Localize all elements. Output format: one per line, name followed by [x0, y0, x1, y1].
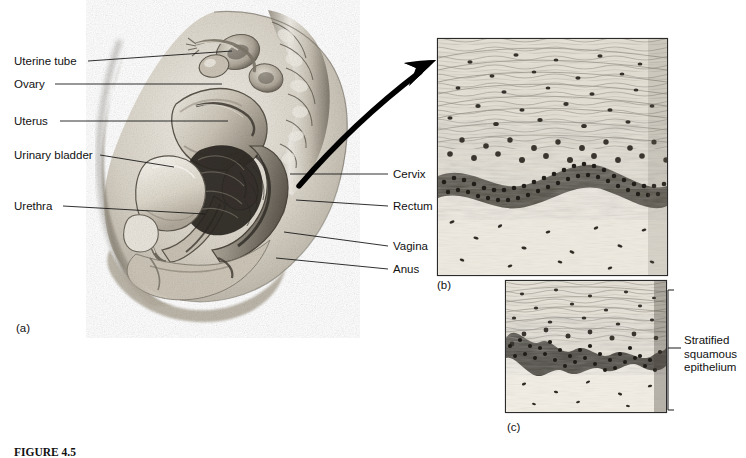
panel-label-c: (c)	[507, 421, 520, 433]
panel-b-micrograph	[438, 39, 669, 276]
panel-c-micrograph	[506, 281, 667, 413]
label-cervix: Cervix	[393, 168, 426, 180]
bracket-label-line-2: squamous	[684, 348, 737, 362]
figure-canvas: Waldrop	[0, 0, 746, 458]
label-anus: Anus	[393, 263, 419, 275]
panel-label-a: (a)	[16, 322, 30, 334]
panel-label-b: (b)	[437, 279, 451, 291]
label-ovary: Ovary	[14, 78, 45, 90]
bracket-label-line-3: epithelium	[684, 361, 737, 375]
label-rectum: Rectum	[393, 200, 433, 212]
label-vagina: Vagina	[393, 240, 428, 252]
figure-caption: FIGURE 4.5	[14, 446, 76, 458]
bracket-label-line-1: Stratified	[684, 334, 737, 348]
label-uterine-tube: Uterine tube	[14, 55, 77, 67]
label-urinary-bladder: Urinary bladder	[14, 149, 93, 161]
label-uterus: Uterus	[14, 115, 48, 127]
label-urethra: Urethra	[14, 200, 52, 212]
bracket-label-stratified-squamous-epithelium: Stratified squamous epithelium	[684, 334, 737, 375]
